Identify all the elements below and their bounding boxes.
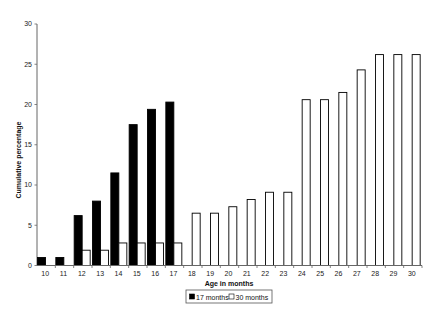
bar-30-months-27 xyxy=(357,70,365,266)
bar-30-months-22 xyxy=(266,192,274,265)
bar-30-months-30 xyxy=(412,55,420,266)
x-tick-label: 13 xyxy=(96,270,104,277)
x-tick-label: 26 xyxy=(335,270,343,277)
x-tick-label: 24 xyxy=(298,270,306,277)
x-tick-label: 18 xyxy=(188,270,196,277)
bar-17-months-17 xyxy=(166,102,174,265)
bar-17-months-13 xyxy=(93,201,101,265)
y-tick-label: 5 xyxy=(28,222,32,229)
bar-30-months-25 xyxy=(321,100,329,266)
y-axis-title: Cumulative percentage xyxy=(15,121,23,198)
bar-30-months-14 xyxy=(119,243,127,266)
bar-30-months-21 xyxy=(247,199,255,265)
legend: 17 months 30 months xyxy=(186,290,272,303)
x-tick-label: 21 xyxy=(243,270,251,277)
legend-swatch-30-months xyxy=(229,294,234,299)
bar-17-months-12 xyxy=(74,216,82,266)
bar-17-months-10 xyxy=(38,257,46,265)
x-tick-label: 19 xyxy=(206,270,214,277)
x-axis-title: Age in months xyxy=(205,280,254,288)
bar-30-months-23 xyxy=(284,192,292,265)
x-tick-label: 17 xyxy=(170,270,178,277)
bar-30-months-16 xyxy=(156,243,164,266)
legend-label-17-months: 17 months xyxy=(196,294,229,301)
bar-30-months-24 xyxy=(302,100,310,266)
bar-17-months-14 xyxy=(111,173,119,266)
x-tick-label: 10 xyxy=(41,270,49,277)
x-tick-label: 30 xyxy=(408,270,416,277)
bar-chart: 051015202530 101112131415161718192021222… xyxy=(0,0,439,321)
y-tick-label: 20 xyxy=(24,101,32,108)
bar-30-months-28 xyxy=(376,55,384,266)
x-axis-ticks: 1011121314151617181920212223242526272829… xyxy=(41,266,422,277)
y-tick-label: 30 xyxy=(24,20,32,27)
bar-30-months-26 xyxy=(339,92,347,265)
bar-17-months-11 xyxy=(56,257,64,265)
y-tick-label: 15 xyxy=(24,141,32,148)
x-tick-label: 12 xyxy=(78,270,86,277)
y-tick-label: 0 xyxy=(28,262,32,269)
bar-30-months-20 xyxy=(229,207,237,266)
x-tick-label: 11 xyxy=(60,270,67,277)
x-tick-label: 25 xyxy=(316,270,324,277)
bar-30-months-15 xyxy=(137,243,145,266)
bar-30-months-18 xyxy=(192,213,200,265)
x-tick-label: 22 xyxy=(261,270,269,277)
bar-30-months-13 xyxy=(101,250,109,265)
legend-label-30-months: 30 months xyxy=(236,294,269,301)
bar-30-months-12 xyxy=(82,250,90,265)
x-tick-label: 27 xyxy=(353,270,361,277)
x-tick-label: 16 xyxy=(151,270,159,277)
x-tick-label: 23 xyxy=(280,270,288,277)
y-tick-label: 25 xyxy=(24,61,32,68)
bar-17-months-16 xyxy=(148,109,156,265)
bar-17-months-15 xyxy=(129,125,137,266)
x-tick-label: 14 xyxy=(115,270,123,277)
bars xyxy=(38,55,421,266)
y-axis-ticks: 051015202530 xyxy=(24,20,37,268)
y-tick-label: 10 xyxy=(24,181,32,188)
legend-swatch-17-months xyxy=(190,294,195,299)
x-tick-label: 20 xyxy=(225,270,233,277)
x-tick-label: 28 xyxy=(371,270,379,277)
bar-30-months-17 xyxy=(174,243,182,266)
x-tick-label: 15 xyxy=(133,270,141,277)
bar-30-months-19 xyxy=(211,213,219,265)
bar-30-months-29 xyxy=(394,55,402,266)
x-tick-label: 29 xyxy=(390,270,398,277)
